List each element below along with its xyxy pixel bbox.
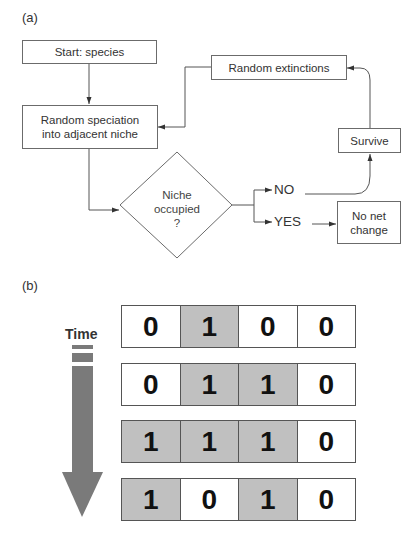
- start-node: Start: species: [22, 40, 157, 64]
- cell: 0: [298, 421, 356, 462]
- decision-text-1: Niche: [137, 188, 217, 202]
- panel-b-label: (b): [22, 278, 38, 293]
- state-row-2: 0 1 1 0: [121, 363, 356, 406]
- state-row-3: 1 1 1 0: [121, 420, 356, 463]
- cell: 0: [298, 306, 356, 347]
- extinctions-text: Random extinctions: [229, 61, 330, 75]
- cell: 0: [298, 364, 356, 405]
- no-change-text-1: No net: [352, 209, 386, 223]
- panel-a-label: (a): [22, 10, 38, 25]
- branch-yes-label: YES: [274, 214, 301, 229]
- extinctions-node: Random extinctions: [211, 55, 347, 80]
- cell: 1: [239, 364, 298, 405]
- cell: 0: [298, 479, 356, 520]
- cell: 0: [122, 364, 181, 405]
- survive-node: Survive: [338, 128, 401, 153]
- no-change-text-2: change: [350, 223, 388, 237]
- time-arrow-icon: [62, 345, 103, 517]
- cell: 1: [239, 479, 298, 520]
- decision-text-2: occupied: [137, 202, 217, 216]
- cell: 1: [122, 421, 181, 462]
- cell: 1: [239, 421, 298, 462]
- time-label: Time: [65, 326, 97, 342]
- cell: 0: [239, 306, 298, 347]
- state-row-1: 0 1 0 0: [121, 305, 356, 348]
- cell: 1: [181, 306, 240, 347]
- speciation-text-1: Random speciation: [41, 113, 139, 127]
- no-net-change-node: No net change: [337, 201, 401, 244]
- cell: 0: [181, 479, 240, 520]
- cell: 1: [181, 421, 240, 462]
- state-row-4: 1 0 1 0: [121, 478, 356, 521]
- cell: 1: [181, 364, 240, 405]
- speciation-text-2: into adjacent niche: [42, 127, 138, 141]
- branch-no-label: NO: [274, 182, 294, 197]
- start-node-text: Start: species: [55, 45, 125, 59]
- speciation-node: Random speciation into adjacent niche: [22, 105, 158, 149]
- survive-text: Survive: [350, 134, 388, 148]
- decision-text: Niche occupied ?: [137, 188, 217, 230]
- cell: 1: [122, 479, 181, 520]
- cell: 0: [122, 306, 181, 347]
- decision-text-3: ?: [137, 216, 217, 230]
